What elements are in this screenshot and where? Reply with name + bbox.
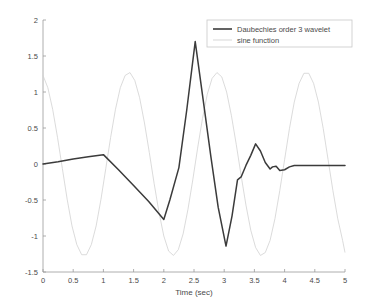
x-axis-label: Time (sec) <box>175 288 213 297</box>
x-tick-label: 2 <box>162 276 166 285</box>
y-tick-labels: 21.510.50-0.5-1-1.5 <box>25 16 38 277</box>
x-tick-label: 1.5 <box>128 276 138 285</box>
legend[interactable]: Daubechies order 3 wavelet sine function <box>207 20 352 47</box>
y-tick-label: 1.5 <box>28 52 38 61</box>
chart-figure: 21.510.50-0.5-1-1.5 00.511.522.533.544.5… <box>0 0 370 308</box>
x-tick-marks <box>43 269 345 272</box>
x-tick-label: 3 <box>222 276 226 285</box>
y-tick-marks <box>43 20 46 272</box>
chart-canvas: 21.510.50-0.5-1-1.5 00.511.522.533.544.5… <box>0 0 370 308</box>
x-tick-label: 4.5 <box>310 276 320 285</box>
y-tick-label: -1 <box>31 232 38 241</box>
x-tick-label: 5 <box>343 276 347 285</box>
y-tick-label: -0.5 <box>25 196 38 205</box>
y-tick-label: 1 <box>34 88 38 97</box>
data-series-group <box>43 42 345 256</box>
x-tick-label: 0.5 <box>68 276 78 285</box>
y-tick-label: 0 <box>34 160 38 169</box>
series-line-daubechies-wavelet <box>43 42 345 246</box>
legend-label-wavelet: Daubechies order 3 wavelet <box>237 25 331 34</box>
y-tick-label: -1.5 <box>25 268 38 277</box>
x-tick-label: 3.5 <box>249 276 259 285</box>
x-tick-label: 1 <box>101 276 105 285</box>
x-tick-label: 0 <box>41 276 45 285</box>
legend-label-sine: sine function <box>237 36 279 45</box>
x-tick-label: 2.5 <box>189 276 199 285</box>
plot-axes <box>43 20 345 272</box>
x-tick-label: 4 <box>283 276 287 285</box>
series-line-sine-function <box>43 73 345 256</box>
y-tick-label: 0.5 <box>28 124 38 133</box>
x-tick-labels: 00.511.522.533.544.55 <box>41 276 347 285</box>
y-tick-label: 2 <box>34 16 38 25</box>
